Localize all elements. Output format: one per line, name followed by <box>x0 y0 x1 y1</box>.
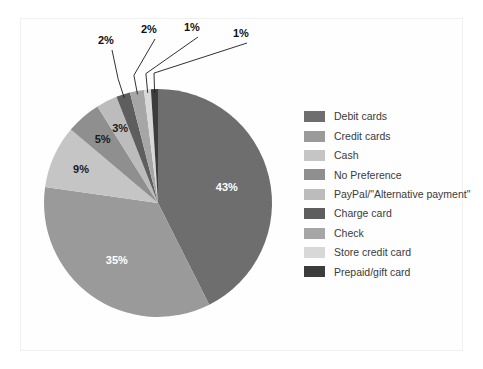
legend-color-swatch <box>304 247 325 258</box>
legend-item-label: PayPal/"Alternative payment" <box>334 189 470 200</box>
legend-item[interactable]: Charge card <box>304 204 479 223</box>
legend-item[interactable]: Cash <box>304 146 479 165</box>
pie-chart-area: 43%35%9%5%3%2%2%1%1% <box>21 19 321 352</box>
pie-value-label: 35% <box>106 254 128 266</box>
legend-item[interactable]: Check <box>304 223 479 242</box>
chart-frame: 43%35%9%5%3%2%2%1%1% Debit cardsCredit c… <box>20 18 463 351</box>
pie-value-label: 43% <box>216 181 238 193</box>
pie-leader-line <box>112 50 124 98</box>
legend-color-swatch <box>304 266 325 277</box>
legend-item[interactable]: Credit cards <box>304 126 479 145</box>
legend-item-label: Charge card <box>334 208 392 219</box>
legend-item[interactable]: Debit cards <box>304 107 479 126</box>
pie-value-label: 5% <box>95 133 111 145</box>
pie-value-label: 1% <box>184 21 200 33</box>
pie-value-label: 2% <box>98 34 114 46</box>
chart-legend: Debit cardsCredit cardsCashNo Preference… <box>304 107 479 282</box>
pie-value-label: 9% <box>73 163 89 175</box>
legend-color-swatch <box>304 189 325 200</box>
legend-color-swatch <box>304 169 325 180</box>
legend-item-label: Check <box>334 228 364 239</box>
pie-slices-group <box>44 89 272 317</box>
pie-value-label: 1% <box>233 27 249 39</box>
pie-value-label: 3% <box>112 122 128 134</box>
pie-leader-line <box>154 43 247 93</box>
legend-item-label: Store credit card <box>334 247 411 258</box>
legend-item-label: No Preference <box>334 170 402 181</box>
legend-item[interactable]: No Preference <box>304 165 479 184</box>
pie-chart-svg: 43%35%9%5%3%2%2%1%1% <box>21 19 321 352</box>
legend-item[interactable]: PayPal/"Alternative payment" <box>304 185 479 204</box>
pie-leader-line <box>146 37 198 93</box>
legend-item-label: Cash <box>334 150 359 161</box>
pie-leader-line <box>134 39 155 94</box>
legend-item[interactable]: Store credit card <box>304 243 479 262</box>
chart-screenshot: 43%35%9%5%3%2%2%1%1% Debit cardsCredit c… <box>0 0 483 369</box>
legend-color-swatch <box>304 208 325 219</box>
legend-item-label: Prepaid/gift card <box>334 267 410 278</box>
legend-item[interactable]: Prepaid/gift card <box>304 262 479 281</box>
legend-item-label: Debit cards <box>334 111 387 122</box>
pie-value-label: 2% <box>141 23 157 35</box>
legend-item-label: Credit cards <box>334 131 391 142</box>
legend-color-swatch <box>304 150 325 161</box>
pie-leader-lines-group <box>112 37 247 98</box>
legend-color-swatch <box>304 131 325 142</box>
legend-color-swatch <box>304 228 325 239</box>
legend-color-swatch <box>304 111 325 122</box>
